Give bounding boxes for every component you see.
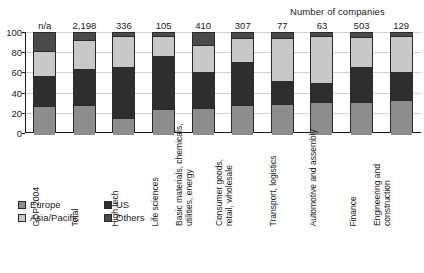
bar-slot [25, 32, 65, 133]
bar-segment-others [74, 33, 95, 40]
bar-segment-europe [272, 104, 293, 135]
bar-slot [342, 32, 382, 133]
x-axis-label-line: retail, wholesale [225, 159, 235, 226]
bar-segment-europe [74, 105, 95, 135]
company-count-label: n/a [25, 20, 65, 32]
chart-legend: Europe US Asia/Pacific Others [18, 198, 198, 224]
stacked-bar[interactable] [112, 32, 135, 133]
bar-slot [381, 32, 421, 133]
y-axis-tick-0: 0 [0, 129, 22, 139]
bar-slot [104, 32, 144, 133]
bar-slot [302, 32, 342, 133]
stacked-bars-group [25, 32, 421, 133]
bar-segment-us [391, 72, 412, 101]
legend-swatch-asia-pacific-icon [18, 214, 26, 222]
bar-segment-us [193, 72, 214, 109]
stacked-bar[interactable] [152, 32, 175, 133]
bar-segment-us [232, 62, 253, 106]
legend-swatch-us-icon [104, 201, 112, 209]
bar-slot [263, 32, 303, 133]
legend-item-asia-pacific[interactable]: Asia/Pacific [18, 212, 104, 223]
stacked-bar[interactable] [350, 32, 373, 133]
stacked-bar[interactable] [231, 32, 254, 133]
bar-segment-asia [311, 36, 332, 84]
y-axis-tick-40: 40 [0, 88, 22, 98]
company-count-label: 105 [144, 20, 184, 32]
bar-slot [144, 32, 184, 133]
y-tick-mark-0 [22, 133, 25, 134]
legend-item-others[interactable]: Others [104, 212, 145, 223]
bar-segment-europe [34, 106, 55, 135]
bar-segment-asia [193, 45, 214, 72]
bar-slot [223, 32, 263, 133]
company-count-label: 77 [263, 20, 303, 32]
bar-segment-asia [391, 36, 412, 72]
bar-segment-others [34, 33, 55, 51]
legend-label-others: Others [116, 212, 145, 223]
bar-segment-us [113, 67, 134, 118]
bar-segment-us [351, 67, 372, 103]
bar-segment-europe [193, 108, 214, 135]
stacked-bar[interactable] [310, 32, 333, 133]
legend-item-europe[interactable]: Europe [18, 199, 104, 210]
company-count-label: 410 [183, 20, 223, 32]
bar-segment-us [311, 83, 332, 102]
bar-segment-us [153, 56, 174, 109]
bar-segment-europe [232, 105, 253, 135]
company-count-label: 63 [302, 20, 342, 32]
stacked-bar[interactable] [390, 32, 413, 133]
x-axis-label: Transport, logistics [269, 155, 279, 226]
x-axis-label-slot: Transport, logistics [263, 140, 303, 228]
bar-segment-us [74, 69, 95, 106]
legend-label-europe: Europe [30, 199, 61, 210]
y-axis-tick-100: 100 [0, 28, 22, 38]
company-count-label: 336 [104, 20, 144, 32]
bar-segment-asia [153, 36, 174, 56]
bar-slot [65, 32, 105, 133]
x-axis-label-line: Automotive and assembly [308, 129, 318, 226]
company-count-label: 307 [223, 20, 263, 32]
company-count-label: 2,198 [65, 20, 105, 32]
y-axis-tick-20: 20 [0, 108, 22, 118]
legend-swatch-others-icon [104, 214, 112, 222]
legend-swatch-europe-icon [18, 201, 26, 209]
company-count-labels-row: n/a2,1983361054103077763503129 [25, 20, 421, 32]
y-axis-tick-60: 60 [0, 68, 22, 78]
x-axis-label-slot: Engineering andconstruction [381, 140, 421, 228]
x-axis-label-slot: Automotive and assembly [302, 140, 342, 228]
bar-segment-europe [113, 118, 134, 135]
bar-segment-asia [232, 38, 253, 62]
bar-segment-asia [351, 37, 372, 67]
bar-segment-others [193, 33, 214, 45]
legend-row-2: Asia/Pacific Others [18, 211, 198, 224]
x-axis-label-line: Transport, logistics [269, 155, 279, 226]
x-axis-label-line: construction [383, 164, 393, 226]
bar-segment-asia [272, 38, 293, 81]
stacked-bar[interactable] [192, 32, 215, 133]
legend-label-asia-pacific: Asia/Pacific [30, 212, 79, 223]
x-axis-label-slot: Consumer goods,retail, wholesale [223, 140, 263, 228]
x-axis-label: Automotive and assembly [308, 129, 318, 226]
legend-item-us[interactable]: US [104, 199, 129, 210]
legend-label-us: US [116, 199, 129, 210]
company-count-label: 503 [342, 20, 382, 32]
stacked-bar[interactable] [271, 32, 294, 133]
company-count-label: 129 [381, 20, 421, 32]
x-axis-label: Consumer goods,retail, wholesale [215, 159, 234, 226]
bar-segment-europe [391, 100, 412, 135]
stacked-bar[interactable] [33, 32, 56, 133]
bar-slot [183, 32, 223, 133]
stacked-bar[interactable] [73, 32, 96, 133]
y-axis-tick-labels: 100806040200 [0, 32, 22, 133]
bar-segment-europe [351, 102, 372, 135]
number-of-companies-annotation: Number of companies [290, 6, 385, 17]
x-axis-label-line: Finance [348, 196, 358, 226]
bar-segment-us [272, 81, 293, 105]
bar-segment-asia [34, 51, 55, 76]
chart-plot-area: n/a2,1983361054103077763503129 100806040… [0, 18, 424, 138]
legend-row-1: Europe US [18, 198, 198, 211]
bar-segment-asia [74, 40, 95, 69]
x-axis-label: Finance [348, 196, 358, 226]
bar-segment-us [34, 76, 55, 107]
y-axis-tick-80: 80 [0, 48, 22, 58]
